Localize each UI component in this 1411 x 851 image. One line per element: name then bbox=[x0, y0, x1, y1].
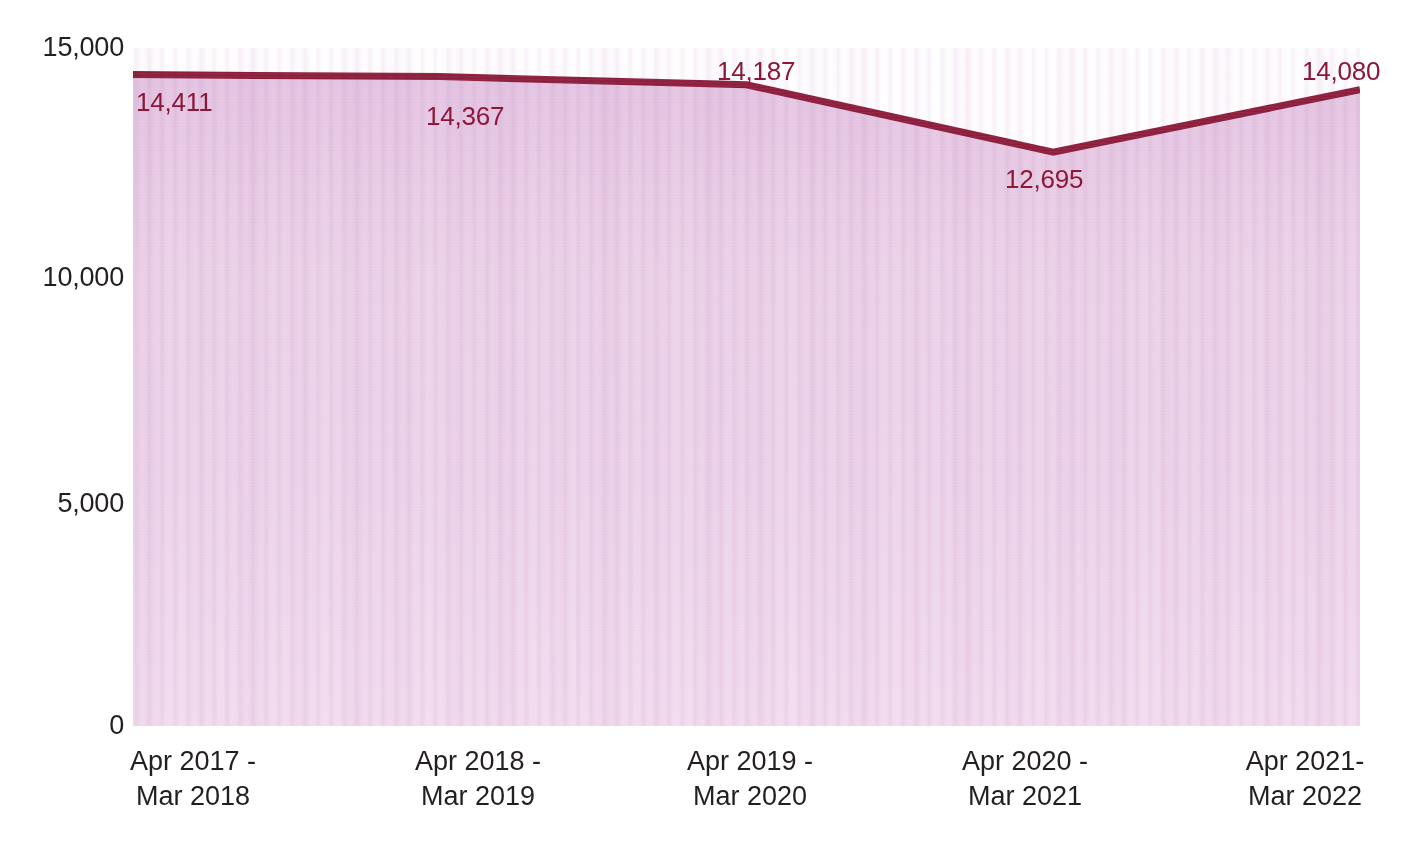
x-axis-tick-line1: Apr 2018 - bbox=[348, 744, 608, 779]
x-axis-tick-line2: Mar 2022 bbox=[1175, 779, 1411, 814]
x-axis-tick-label: Apr 2018 - Mar 2019 bbox=[348, 744, 608, 814]
area-fill bbox=[133, 75, 1360, 726]
x-axis-tick-label: Apr 2017 - Mar 2018 bbox=[63, 744, 323, 814]
y-axis-tick-label: 10,000 bbox=[43, 264, 124, 291]
y-axis-tick-label: 0 bbox=[109, 712, 124, 739]
plot-area bbox=[133, 48, 1360, 726]
x-axis-tick-label: Apr 2019 - Mar 2020 bbox=[620, 744, 880, 814]
y-axis-tick-label: 15,000 bbox=[43, 34, 124, 61]
y-axis-tick-label: 5,000 bbox=[57, 490, 124, 517]
line-area-chart: 15,000 10,000 5,000 0 14,411 14,367 bbox=[0, 0, 1411, 851]
data-point-label: 14,367 bbox=[426, 103, 504, 129]
data-point-label: 14,187 bbox=[717, 58, 795, 84]
x-axis-tick-label: Apr 2021- Mar 2022 bbox=[1175, 744, 1411, 814]
data-point-label: 14,080 bbox=[1302, 58, 1380, 84]
area-series-graphic bbox=[133, 48, 1360, 726]
x-axis-tick-line1: Apr 2021- bbox=[1175, 744, 1411, 779]
x-axis-tick-line1: Apr 2017 - bbox=[63, 744, 323, 779]
data-point-label: 14,411 bbox=[136, 89, 212, 115]
x-axis-tick-line2: Mar 2018 bbox=[63, 779, 323, 814]
x-axis-tick-label: Apr 2020 - Mar 2021 bbox=[895, 744, 1155, 814]
x-axis-tick-line1: Apr 2019 - bbox=[620, 744, 880, 779]
x-axis-tick-line2: Mar 2020 bbox=[620, 779, 880, 814]
data-point-label: 12,695 bbox=[1005, 166, 1083, 192]
x-axis-tick-line2: Mar 2019 bbox=[348, 779, 608, 814]
x-axis-tick-line1: Apr 2020 - bbox=[895, 744, 1155, 779]
x-axis-tick-line2: Mar 2021 bbox=[895, 779, 1155, 814]
